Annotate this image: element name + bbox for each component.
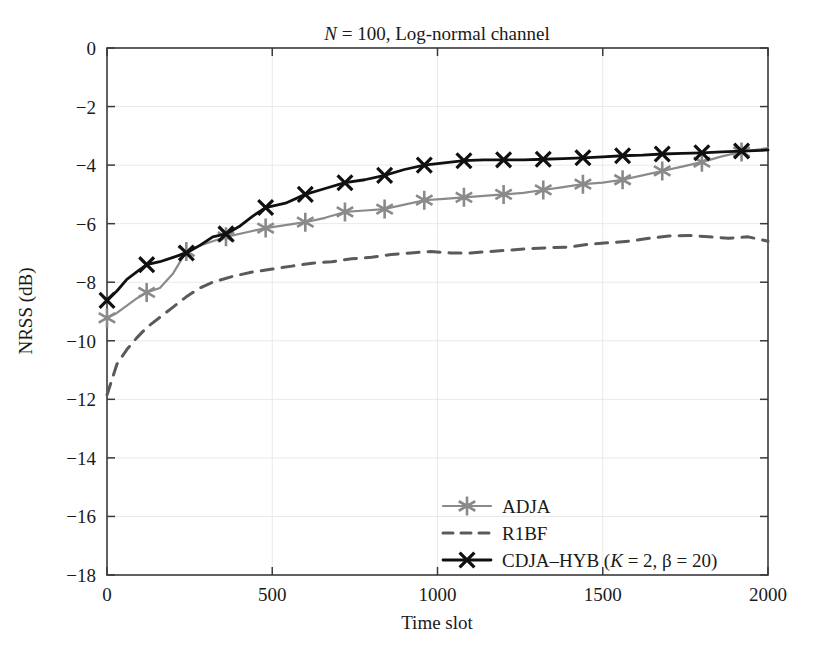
legend-label: R1BF — [502, 523, 547, 544]
legend-label: ADJA — [502, 496, 551, 517]
y-tick-label: −8 — [76, 272, 96, 293]
legend-label-prefix: CDJA–HYB ( — [502, 550, 610, 572]
x-tick-label: 1000 — [419, 584, 457, 605]
chart-title: N = 100, Log-normal channel — [323, 23, 549, 44]
legend-label: CDJA–HYB (K = 2, β = 20) — [502, 550, 717, 572]
x-tick-label: 1500 — [584, 584, 622, 605]
y-tick-label: −6 — [76, 214, 96, 235]
y-tick-label: −16 — [66, 506, 96, 527]
y-axis-label: NRSS (dB) — [15, 267, 37, 354]
y-tick-label: −10 — [66, 331, 96, 352]
y-tick-label: 0 — [87, 38, 97, 59]
y-tick-label: −18 — [66, 565, 96, 586]
x-tick-label: 0 — [102, 584, 112, 605]
y-tick-label: −12 — [66, 389, 96, 410]
x-tick-label: 2000 — [749, 584, 787, 605]
chart-svg: 0500100015002000 0−2−4−6−8−10−12−14−16−1… — [0, 0, 828, 663]
y-tick-label: −2 — [76, 97, 96, 118]
legend-label-suffix: = 2, β = 20) — [623, 550, 717, 572]
y-tick-label: −4 — [76, 155, 97, 176]
chart-figure: 0500100015002000 0−2−4−6−8−10−12−14−16−1… — [0, 0, 828, 663]
x-axis-label: Time slot — [401, 612, 473, 633]
x-tick-label: 500 — [258, 584, 287, 605]
y-tick-label: −14 — [66, 448, 96, 469]
title-rest: = 100, Log-normal channel — [337, 23, 550, 44]
